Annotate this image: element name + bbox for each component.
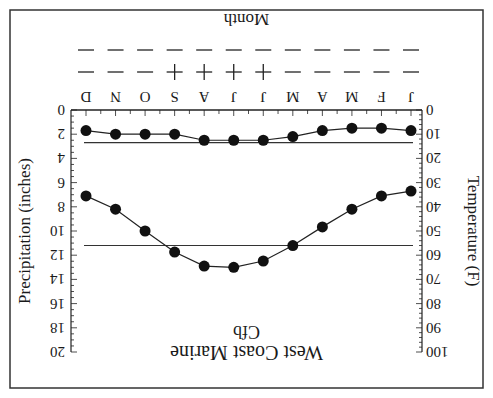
- temperature-point: [376, 190, 387, 201]
- temperature-point: [406, 186, 417, 197]
- temperature-tick-label: 10: [426, 126, 441, 142]
- precipitation-tick-label: 10: [50, 223, 65, 239]
- precipitation-tick-label: 20: [50, 344, 65, 360]
- temperature-line: [86, 191, 411, 267]
- month-label: J: [260, 89, 266, 105]
- month-label: N: [110, 89, 121, 105]
- precipitation-point: [169, 129, 180, 140]
- temperature-tick-label: 80: [426, 296, 441, 312]
- month-label: F: [377, 89, 385, 105]
- precipitation-point: [140, 129, 151, 140]
- month-label: J: [408, 89, 414, 105]
- precipitation-point: [317, 125, 328, 136]
- climate-chart: 010203040506070809010002468101214161820T…: [0, 0, 493, 398]
- precipitation-tick-label: 4: [57, 150, 65, 166]
- temperature-tick-label: 90: [426, 320, 441, 336]
- precipitation-tick-label: 6: [57, 175, 65, 191]
- temperature-point: [258, 256, 269, 267]
- month-label: A: [317, 89, 328, 105]
- month-label: A: [199, 89, 210, 105]
- temperature-point: [110, 204, 121, 215]
- temperature-point: [169, 247, 180, 258]
- month-label: S: [170, 89, 178, 105]
- precipitation-tick-label: 18: [50, 320, 65, 336]
- temperature-tick-label: 40: [426, 199, 441, 215]
- temperature-point: [140, 226, 151, 237]
- month-label: J: [231, 89, 237, 105]
- temperature-tick-label: 100: [426, 344, 449, 360]
- climate-graph-svg: 010203040506070809010002468101214161820T…: [0, 0, 493, 398]
- precipitation-tick-label: 0: [58, 102, 66, 118]
- temperature-point: [81, 190, 92, 201]
- precipitation-tick-label: 14: [50, 271, 66, 287]
- precipitation-point: [81, 125, 92, 136]
- precipitation-point: [258, 135, 269, 146]
- temperature-tick-label: 50: [426, 223, 441, 239]
- precipitation-tick-label: 16: [50, 296, 66, 312]
- precipitation-axis-title: Precipitation (inches): [15, 158, 34, 304]
- temperature-tick-label: 60: [426, 247, 441, 263]
- precipitation-line: [86, 128, 411, 140]
- temperature-point: [287, 240, 298, 251]
- precipitation-tick-label: 12: [50, 247, 65, 263]
- month-label: M: [345, 89, 358, 105]
- temperature-tick-label: 20: [426, 150, 441, 166]
- temperature-point: [228, 262, 239, 273]
- precipitation-point: [199, 135, 210, 146]
- temperature-tick-label: 0: [426, 102, 434, 118]
- precipitation-tick-label: 8: [58, 199, 66, 215]
- chart-title: West Coast Marine: [170, 342, 323, 364]
- precipitation-tick-label: 2: [58, 126, 66, 142]
- temperature-axis-title: Temperature (F): [464, 176, 483, 287]
- precipitation-point: [287, 131, 298, 142]
- precipitation-point: [376, 123, 387, 134]
- month-label: M: [286, 89, 299, 105]
- precipitation-point: [346, 123, 357, 134]
- temperature-point: [346, 204, 357, 215]
- precipitation-point: [406, 125, 417, 136]
- temperature-point: [317, 221, 328, 232]
- temperature-tick-label: 30: [426, 175, 441, 191]
- precipitation-point: [228, 135, 239, 146]
- x-axis-title: Month: [223, 10, 269, 29]
- chart-subtitle: Cfb: [233, 322, 260, 342]
- temperature-tick-label: 70: [426, 271, 441, 287]
- precipitation-point: [110, 129, 121, 140]
- month-label: O: [140, 89, 151, 105]
- temperature-point: [199, 261, 210, 272]
- month-label: D: [80, 89, 91, 105]
